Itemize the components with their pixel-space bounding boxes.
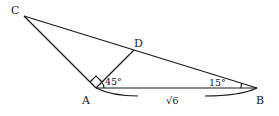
right-angle-marker — [90, 76, 102, 82]
label-b: B — [256, 94, 264, 107]
length-label-ab: √6 — [166, 95, 179, 106]
angle-arc-15 — [241, 83, 242, 88]
length-brace-left — [96, 88, 138, 96]
label-a: A — [81, 94, 91, 107]
label-d: D — [134, 37, 143, 50]
length-brace-right — [205, 88, 257, 96]
angle-label-45: 45° — [105, 76, 122, 87]
label-c: C — [11, 4, 19, 17]
angle-arc-45 — [102, 82, 104, 88]
angle-label-15: 15° — [209, 77, 226, 88]
triangle-diagram: C D A B 45° 15° √6 — [0, 0, 279, 116]
